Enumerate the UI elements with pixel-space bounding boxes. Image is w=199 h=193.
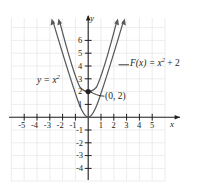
curve-label-f-tail: + 2: [165, 58, 180, 68]
y-tick-label-6: 6: [78, 36, 82, 45]
y-axis-label: y: [90, 14, 94, 23]
vertex-point-label: (0, 2): [105, 92, 126, 102]
y-tick-label--1: -1: [76, 126, 83, 135]
x-tick-label-1: 1: [99, 121, 103, 130]
vertex-point-marker: [86, 89, 91, 94]
y-tick-label-3: 3: [78, 75, 82, 84]
x-tick-label--2: -2: [57, 121, 64, 130]
curve-label-f-middle: = x: [146, 58, 161, 68]
curve-label-y-exponent: 2: [57, 73, 60, 80]
x-tick-label--5: -5: [18, 121, 25, 130]
x-tick-label-2: 2: [112, 121, 116, 130]
y-tick-label-5: 5: [78, 49, 82, 58]
y-tick-label--4: -4: [76, 164, 83, 173]
x-tick-label-3: 3: [124, 121, 128, 130]
x-tick-label--4: -4: [31, 121, 38, 130]
x-axis-arrowhead: [175, 115, 180, 120]
x-tick-label-5: 5: [150, 121, 154, 130]
x-tick-label-4: 4: [137, 121, 141, 130]
y-tick-label--3: -3: [76, 151, 83, 160]
y-tick-label--2: -2: [76, 139, 83, 148]
coordinate-plane-svg: [0, 0, 199, 193]
y-tick-label-2: 2: [78, 87, 82, 96]
y-tick-label-1: 1: [78, 100, 82, 109]
curve-label-y-equals-x-squared: y = x2: [37, 76, 60, 86]
curve-label-f-of-x: F(x) = x2 + 2: [130, 59, 180, 69]
x-tick-label--3: -3: [44, 121, 51, 130]
y-tick-label-4: 4: [78, 62, 82, 71]
vertex-point-leader-line: [91, 92, 105, 96]
curve-label-f-argument: (x): [136, 58, 147, 68]
x-axis-label: x: [170, 120, 174, 129]
graph-figure: -5 -4 -3 -2 -1 1 2 3 4 5 6 5 4 3 2 1 -1 …: [0, 0, 199, 193]
curve-label-y-main: y = x: [37, 75, 57, 85]
